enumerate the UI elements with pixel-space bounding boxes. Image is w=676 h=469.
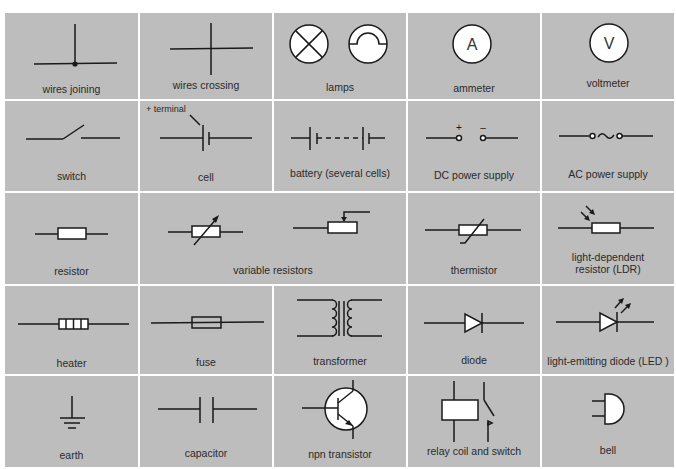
cell-resistor: resistor (5, 193, 138, 284)
cell-diode: diode (408, 286, 540, 374)
potentiometer-icon (293, 212, 370, 233)
label-ammeter: ammeter (408, 82, 540, 94)
label-earth: earth (5, 449, 138, 461)
plus-sign: + (456, 122, 462, 133)
cell-dc-power-supply: + – DC power supply (408, 101, 540, 191)
cell-voltmeter: V voltmeter (542, 13, 674, 99)
cell-wires-joining: wires joining (5, 13, 138, 99)
label-led: light-emitting diode (LED ) (542, 355, 674, 367)
label-ldr-line2: resistor (LDR) (542, 263, 674, 275)
label-wires-joining: wires joining (5, 83, 138, 95)
label-bell: bell (542, 444, 674, 456)
cell-variable-resistors: variable resistors (140, 193, 406, 284)
cell-npn-transistor: npn transistor (274, 376, 406, 467)
cell-wires-crossing: wires crossing (140, 13, 272, 99)
ammeter-glyph: A (467, 36, 478, 53)
label-thermistor: thermistor (408, 264, 540, 276)
label-dc-power-supply: DC power supply (408, 169, 540, 181)
label-diode: diode (408, 354, 540, 366)
label-ldr-line1: light-dependent (542, 251, 674, 263)
label-heater: heater (5, 357, 138, 369)
voltmeter-glyph: V (604, 35, 615, 52)
label-lamps: lamps (274, 81, 406, 93)
label-wires-crossing: wires crossing (140, 79, 272, 91)
positive-terminal-annotation: + terminal (146, 103, 186, 115)
cell-relay: relay coil and switch (408, 376, 540, 467)
label-cell: cell (140, 171, 272, 183)
cell-fuse: fuse (140, 286, 272, 374)
lamp-filament-icon (349, 25, 387, 63)
cell-lamps: lamps (274, 13, 406, 99)
cell-capacitor: capacitor (140, 376, 272, 467)
cell-switch: switch (5, 101, 138, 191)
light-arrows-icon (581, 206, 595, 221)
cell-ammeter: A ammeter (408, 13, 540, 99)
lamp-cross-icon (290, 25, 328, 63)
cell-led: light-emitting diode (LED ) (542, 286, 674, 374)
rheostat-icon (168, 215, 243, 245)
cell-cell: + terminal cell (140, 101, 272, 191)
relay-switch-icon (484, 382, 494, 442)
cell-ac-power-supply: AC power supply (542, 101, 674, 191)
cell-earth: earth (5, 376, 138, 467)
label-voltmeter: voltmeter (542, 77, 674, 89)
label-npn-transistor: npn transistor (274, 448, 406, 460)
cell-thermistor: thermistor (408, 193, 540, 284)
circuit-symbols-grid: wires joining wires crossing lamps A (5, 13, 672, 465)
label-switch: switch (5, 170, 138, 182)
cell-heater: heater (5, 286, 138, 374)
cell-battery: battery (several cells) (274, 101, 406, 191)
label-fuse: fuse (140, 356, 272, 368)
label-transformer: transformer (274, 355, 406, 367)
label-relay: relay coil and switch (408, 445, 540, 457)
label-variable-resistors: variable resistors (140, 264, 406, 276)
light-emission-arrows-icon (615, 298, 631, 313)
label-resistor: resistor (5, 265, 138, 277)
label-ac-power-supply: AC power supply (542, 168, 674, 180)
label-battery: battery (several cells) (274, 167, 406, 179)
cell-ldr: light-dependent resistor (LDR) (542, 193, 674, 284)
minus-sign: – (480, 122, 486, 133)
label-capacitor: capacitor (140, 447, 272, 459)
cell-bell: bell (542, 376, 674, 467)
cell-transformer: transformer (274, 286, 406, 374)
